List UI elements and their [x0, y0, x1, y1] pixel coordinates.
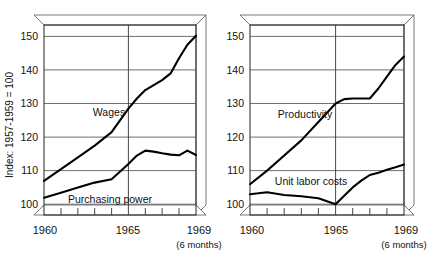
productivity-line — [250, 57, 404, 185]
panel-top-bevel — [34, 15, 206, 25]
y-tick-label: 120 — [20, 131, 38, 143]
y-axis-tick-labels: 100 110 120 130 140 150 — [20, 30, 38, 210]
y-tick-label: 140 — [20, 64, 38, 76]
panel-right-bevel — [404, 15, 414, 215]
panel-bottom-bevel — [34, 205, 206, 215]
left-chart-panel: 100 110 120 130 140 150 Wages Purchasing… — [20, 15, 221, 250]
purchasing-power-line — [44, 151, 196, 198]
y-tick-label: 150 — [226, 30, 244, 42]
y-axis-tick-labels: 100 110 120 130 140 150 — [226, 30, 244, 210]
x-tick-label-mid: 1965 — [324, 224, 348, 236]
y-tick-label: 100 — [226, 198, 244, 210]
chart-canvas: Index: 1957-1959 = 100 — [0, 0, 435, 258]
x-axis-note: (6 months) — [176, 239, 221, 250]
y-tick-label: 130 — [226, 97, 244, 109]
y-tick-label: 140 — [226, 64, 244, 76]
y-tick-label: 150 — [20, 30, 38, 42]
y-axis-label: Index: 1957-1959 = 100 — [4, 72, 15, 178]
chart-figure: Index: 1957-1959 = 100 — [0, 0, 435, 258]
panel-bottom-bevel — [240, 205, 414, 215]
x-tick-label-end: 1969 — [187, 224, 211, 236]
panel-top-bevel — [240, 15, 414, 25]
series-label-purchasing-power: Purchasing power — [68, 193, 153, 205]
x-axis-note: (6 months) — [381, 239, 426, 250]
x-tick-label-end: 1969 — [394, 224, 418, 236]
right-chart-panel: 100 110 120 130 140 150 Productivity Uni… — [226, 15, 426, 250]
series-label-wages: Wages — [93, 106, 125, 118]
y-tick-label: 130 — [20, 97, 38, 109]
series-label-productivity: Productivity — [278, 108, 333, 120]
y-tick-label: 110 — [21, 164, 38, 176]
series-label-unit-labor-costs: Unit labor costs — [275, 175, 347, 187]
y-tick-label: 100 — [20, 198, 38, 210]
y-tick-label: 110 — [227, 164, 244, 176]
panel-right-bevel — [196, 15, 206, 215]
x-tick-label-start: 1960 — [33, 224, 57, 236]
x-tick-label-start: 1960 — [240, 224, 264, 236]
y-tick-label: 120 — [226, 131, 244, 143]
x-tick-label-mid: 1965 — [116, 224, 140, 236]
